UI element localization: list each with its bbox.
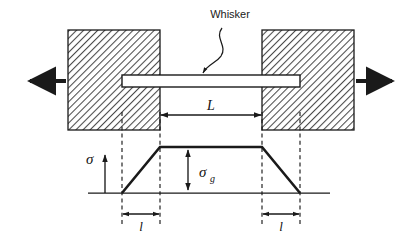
dimension-l-left-label: l [139,219,143,234]
dimension-l-right: l [263,214,299,234]
whisker-label: Whisker [210,8,250,20]
stress-axis-arrow: σ [86,151,105,193]
whisker-leader-line [203,28,223,73]
stress-profile-curve [122,147,300,193]
dimension-l-left: l [123,214,159,234]
sigma-g-label: σ [199,164,207,180]
whisker-bar [122,75,300,87]
dimension-l-right-label: l [279,219,283,234]
sigma-g-subscript: g [210,173,215,184]
figure-canvas: L σ σ g l l Whisker [0,0,415,244]
dimension-L-label: L [206,98,215,113]
stress-axis-label: σ [86,151,94,167]
dimension-sigma-g: σ g [188,150,215,190]
whisker-stress-figure: L σ σ g l l Whisker [0,0,415,244]
dimension-L: L [161,98,261,115]
